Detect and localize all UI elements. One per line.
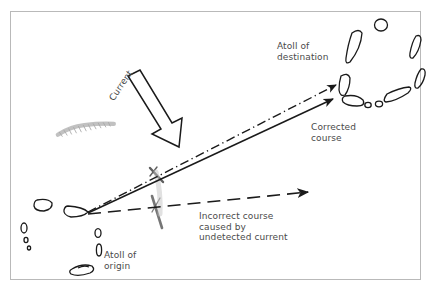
islet (21, 223, 27, 233)
islet (95, 229, 101, 238)
islet (78, 266, 89, 268)
islet (339, 74, 350, 95)
navigation-diagram-figure: Atoll of destination Corrected course In… (0, 0, 432, 291)
islet (410, 36, 421, 59)
islet (96, 244, 101, 256)
islet (24, 237, 28, 242)
course-line-corrected-heading (88, 99, 333, 213)
islet (64, 206, 88, 217)
label-atoll-of-origin: Atoll of origin (104, 250, 136, 271)
islet (34, 199, 52, 211)
islet (415, 69, 425, 88)
label-corrected-course: Corrected course (311, 122, 356, 143)
current-arrow (128, 70, 182, 147)
islet (375, 101, 382, 107)
islet (27, 246, 30, 250)
faint-reef-smudge (57, 118, 114, 140)
islet (346, 31, 362, 63)
islet (375, 19, 388, 31)
atoll-of-destination (339, 19, 425, 108)
islet (384, 87, 411, 102)
islet (342, 96, 363, 107)
label-incorrect-course: Incorrect course caused by undetected cu… (199, 211, 288, 243)
islet (365, 102, 371, 107)
diagram-canvas (0, 0, 432, 291)
label-atoll-of-destination: Atoll of destination (277, 41, 329, 62)
